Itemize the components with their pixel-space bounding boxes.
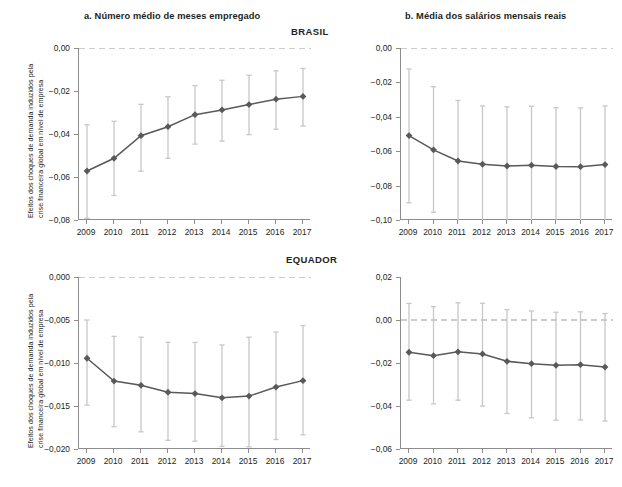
data-point-marker bbox=[273, 96, 280, 103]
data-point-marker bbox=[455, 348, 462, 355]
y-tick-label: 0,02 bbox=[376, 272, 392, 282]
data-point-marker bbox=[528, 162, 535, 169]
x-tick-label: 2013 bbox=[185, 456, 204, 466]
y-axis-title-line2: crise financeira global em nível de empr… bbox=[36, 64, 46, 218]
y-tick-label: −0,02 bbox=[371, 358, 392, 368]
y-axis-title-line1: Efeitos dos choques de demanda induzidos… bbox=[26, 294, 36, 448]
x-tick-mark bbox=[86, 220, 87, 224]
x-tick-mark bbox=[221, 220, 222, 224]
x-tick-mark bbox=[221, 449, 222, 453]
data-point-marker bbox=[455, 158, 462, 165]
data-point-marker bbox=[300, 93, 307, 100]
x-tick-mark bbox=[302, 220, 303, 224]
x-tick-label: 2011 bbox=[448, 456, 466, 466]
x-tick-mark bbox=[302, 449, 303, 453]
data-point-marker bbox=[84, 168, 91, 175]
x-tick-mark bbox=[248, 220, 249, 224]
plot-svg bbox=[79, 48, 311, 220]
y-tick-mark bbox=[74, 220, 78, 221]
y-tick-label: −0,02 bbox=[49, 86, 70, 96]
data-point-marker bbox=[138, 382, 145, 389]
panel-title-b: b. Média dos salários mensais reais bbox=[405, 11, 566, 21]
plot-svg bbox=[401, 277, 613, 449]
x-tick-label: 2011 bbox=[448, 227, 466, 237]
y-tick-label: −0,020 bbox=[44, 444, 70, 454]
y-tick-mark bbox=[396, 186, 400, 187]
data-point-marker bbox=[165, 123, 172, 130]
x-tick-mark bbox=[457, 449, 458, 453]
y-tick-mark bbox=[74, 177, 78, 178]
data-point-marker bbox=[504, 358, 511, 365]
x-tick-label: 2010 bbox=[423, 227, 442, 237]
y-tick-mark bbox=[74, 363, 78, 364]
x-tick-mark bbox=[482, 449, 483, 453]
y-tick-mark bbox=[396, 320, 400, 321]
x-tick-label: 2014 bbox=[521, 456, 540, 466]
y-tick-label: 0,00 bbox=[54, 43, 70, 53]
panel-title-a: a. Número médio de meses empregado bbox=[84, 11, 260, 21]
y-tick-label: −0,015 bbox=[44, 401, 70, 411]
y-tick-mark bbox=[396, 82, 400, 83]
x-tick-mark bbox=[408, 220, 409, 224]
figure-root: a. Número médio de meses empregado b. Mé… bbox=[0, 0, 622, 487]
plot-svg bbox=[401, 48, 613, 220]
y-tick-label: −0,06 bbox=[371, 444, 392, 454]
data-point-marker bbox=[219, 394, 226, 401]
data-point-marker bbox=[528, 360, 535, 367]
x-tick-label: 2015 bbox=[546, 456, 565, 466]
x-tick-mark bbox=[555, 220, 556, 224]
y-tick-mark bbox=[74, 48, 78, 49]
data-point-marker bbox=[553, 163, 560, 170]
x-tick-label: 2010 bbox=[104, 456, 123, 466]
y-tick-mark bbox=[396, 220, 400, 221]
x-tick-label: 2016 bbox=[570, 456, 589, 466]
data-point-marker bbox=[577, 163, 584, 170]
y-tick-mark bbox=[396, 406, 400, 407]
x-tick-label: 2010 bbox=[423, 456, 442, 466]
x-tick-mark bbox=[140, 220, 141, 224]
x-tick-mark bbox=[482, 220, 483, 224]
y-tick-label: −0,010 bbox=[44, 358, 70, 368]
x-tick-label: 2014 bbox=[212, 227, 231, 237]
y-tick-mark bbox=[396, 449, 400, 450]
x-tick-mark bbox=[275, 449, 276, 453]
x-tick-label: 2017 bbox=[595, 456, 614, 466]
x-tick-label: 2017 bbox=[293, 227, 312, 237]
x-tick-mark bbox=[531, 220, 532, 224]
data-point-marker bbox=[192, 390, 199, 397]
x-tick-label: 2016 bbox=[266, 227, 285, 237]
x-tick-label: 2009 bbox=[77, 227, 96, 237]
x-tick-mark bbox=[248, 449, 249, 453]
x-tick-mark bbox=[580, 220, 581, 224]
data-point-marker bbox=[406, 132, 413, 139]
y-tick-mark bbox=[396, 151, 400, 152]
x-tick-label: 2017 bbox=[595, 227, 614, 237]
x-tick-mark bbox=[506, 449, 507, 453]
country-label-equador: EQUADOR bbox=[286, 254, 337, 265]
y-tick-label: −0,04 bbox=[371, 112, 392, 122]
x-tick-mark bbox=[555, 449, 556, 453]
data-point-marker bbox=[430, 352, 437, 359]
data-point-marker bbox=[479, 161, 486, 168]
x-tick-label: 2015 bbox=[239, 227, 258, 237]
chart-panel-equador-meses: 0,000−0,005−0,010−0,015−0,02020092010201… bbox=[78, 277, 310, 471]
x-tick-mark bbox=[275, 220, 276, 224]
x-tick-mark bbox=[457, 220, 458, 224]
y-tick-mark bbox=[396, 277, 400, 278]
data-point-marker bbox=[246, 101, 253, 108]
x-tick-mark bbox=[531, 449, 532, 453]
plot-area bbox=[78, 48, 310, 220]
data-point-marker bbox=[504, 163, 511, 170]
x-tick-label: 2014 bbox=[521, 227, 540, 237]
y-tick-label: −0,06 bbox=[371, 146, 392, 156]
x-tick-mark bbox=[140, 449, 141, 453]
data-point-marker bbox=[602, 161, 609, 168]
data-point-marker bbox=[246, 393, 253, 400]
data-point-marker bbox=[406, 349, 413, 356]
y-tick-label: −0,08 bbox=[371, 181, 392, 191]
chart-panel-equador-salarios: 0,020,00−0,02−0,04−0,0620092010201120122… bbox=[400, 277, 612, 471]
x-tick-label: 2011 bbox=[131, 456, 149, 466]
chart-panel-brasil-meses: 0,00−0,02−0,04−0,06−0,082009201020112012… bbox=[78, 48, 310, 242]
x-tick-label: 2012 bbox=[472, 456, 491, 466]
y-tick-mark bbox=[396, 117, 400, 118]
